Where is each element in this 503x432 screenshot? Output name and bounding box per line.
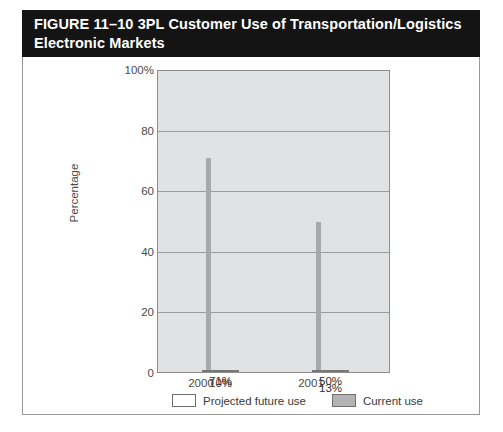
legend-item-projected-future-use[interactable]: Projected future use: [172, 394, 306, 407]
bar-shadow-2001: [316, 222, 321, 373]
chart-area: Percentage 100% 80 60 40 20 0 71% 10% 50…: [22, 57, 480, 415]
y-tick-80: 80: [108, 125, 154, 137]
gridline-40: [158, 252, 389, 253]
plot-area: 71% 10% 50% 13%: [157, 70, 390, 373]
bar-segment-current-2000[interactable]: 10%: [202, 370, 239, 372]
figure-title-bar: FIGURE 11–10 3PL Customer Use of Transpo…: [22, 10, 480, 57]
legend-item-current-use[interactable]: Current use: [332, 394, 423, 407]
y-axis-title: Percentage: [68, 133, 80, 253]
figure-title-line-1: FIGURE 11–10 3PL Customer Use of Transpo…: [34, 15, 468, 34]
legend-label-projected: Projected future use: [203, 395, 306, 407]
x-tick-2000: 2000: [161, 377, 241, 389]
chart-legend: Projected future use Current use: [172, 394, 423, 407]
figure-caption: [30, 421, 495, 432]
y-tick-60: 60: [108, 185, 154, 197]
y-axis-ticks: 100% 80 60 40 20 0: [102, 70, 154, 373]
y-tick-40: 40: [108, 246, 154, 258]
gridline-20: [158, 312, 389, 313]
gridline-80: [158, 131, 389, 132]
y-tick-0: 0: [108, 367, 154, 379]
bar-shadow-2000: [206, 158, 211, 372]
y-tick-100: 100%: [108, 64, 154, 76]
bar-segment-current-2001[interactable]: 13%: [312, 370, 349, 372]
legend-swatch-projected-icon: [172, 394, 196, 407]
x-tick-2001: 2001: [271, 377, 351, 389]
legend-swatch-current-icon: [332, 394, 356, 407]
figure-title-line-2: Electronic Markets: [34, 34, 468, 53]
y-tick-20: 20: [108, 306, 154, 318]
legend-label-current: Current use: [363, 395, 423, 407]
gridline-60: [158, 191, 389, 192]
